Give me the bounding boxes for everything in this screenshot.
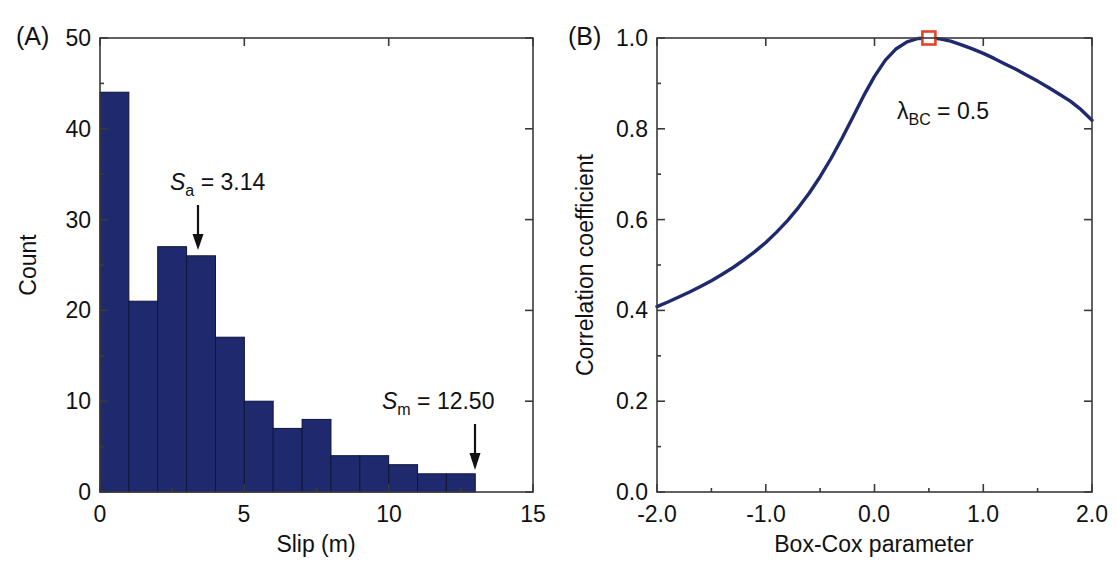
annotation-max-slip-text: Sm = 12.50: [382, 388, 494, 418]
x-ticklabel-4: 2.0: [1076, 501, 1108, 527]
bar-9: [360, 456, 389, 492]
histogram-bars: [100, 92, 475, 492]
x-ticklabel-3: 1.0: [967, 501, 999, 527]
panel-b-y-ticks: [657, 38, 1092, 492]
panel-b-plot: 0.0 0.2 0.4 0.6 0.8 1.0 -2.0 -1.0 0.0 1.…: [557, 0, 1117, 564]
panel-a-histogram: (A): [0, 0, 557, 564]
annotation-max-slip: Sm = 12.50: [382, 388, 494, 470]
annotation-mean-slip-value: = 3.14: [194, 169, 265, 195]
bar-1: [129, 301, 158, 492]
panel-a-x-ticklabels: 0 5 10 15: [94, 501, 546, 527]
panel-a-y-ticklabels: 0 10 20 30 40 50: [65, 25, 91, 505]
annotation-mean-slip-text: Sa = 3.14: [170, 169, 265, 199]
x-ticklabel-2: 10: [376, 501, 402, 527]
annotation-lambda-bc-value: = 0.5: [931, 98, 989, 124]
panel-a-y-axis-title: Count: [15, 234, 41, 296]
y-ticklabel-4: 0.8: [616, 116, 648, 142]
y-ticklabel-1: 0.2: [616, 388, 648, 414]
annotation-max-slip-subscript: m: [397, 401, 410, 418]
panel-a-x-axis-title: Slip (m): [276, 531, 355, 557]
x-ticklabel-1: 5: [238, 501, 251, 527]
x-ticklabel-1: -1.0: [746, 501, 786, 527]
y-ticklabel-3: 30: [65, 207, 91, 233]
y-ticklabel-2: 0.4: [616, 297, 648, 323]
bar-8: [331, 456, 360, 492]
annotation-mean-slip-arrow-head: [193, 234, 204, 250]
y-ticklabel-2: 20: [65, 297, 91, 323]
bar-5: [244, 401, 273, 492]
y-ticklabel-1: 10: [65, 388, 91, 414]
panel-b-axes-frame: [657, 38, 1092, 492]
x-ticklabel-2: 0.0: [858, 501, 890, 527]
bar-4: [216, 337, 245, 492]
y-ticklabel-3: 0.6: [616, 207, 648, 233]
annotation-mean-slip-symbol: S: [170, 169, 186, 195]
bar-11: [418, 474, 447, 492]
bar-6: [273, 428, 302, 492]
x-ticklabel-0: -2.0: [637, 501, 677, 527]
y-ticklabel-5: 1.0: [616, 25, 648, 51]
panel-a-plot: 0 10 20 30 40 50 0 5 10 15 Slip (m) Coun…: [0, 0, 557, 564]
bar-3: [187, 256, 216, 492]
panel-b-y-axis-title: Correlation coefficient: [572, 153, 598, 376]
annotation-max-slip-symbol: S: [382, 388, 398, 414]
bar-0: [100, 92, 129, 492]
panel-b-x-ticklabels: -2.0 -1.0 0.0 1.0 2.0: [637, 501, 1108, 527]
annotation-lambda-bc-subscript: BC: [909, 111, 931, 128]
annotation-max-slip-arrow-head: [470, 453, 481, 470]
annotation-mean-slip-subscript: a: [185, 182, 194, 199]
annotation-lambda-bc: λBC = 0.5: [897, 98, 989, 128]
panel-b-lineplot: (B): [557, 0, 1117, 564]
x-ticklabel-0: 0: [94, 501, 107, 527]
bar-10: [389, 465, 418, 492]
annotation-lambda-bc-symbol: λ: [897, 98, 909, 124]
y-ticklabel-4: 40: [65, 116, 91, 142]
panel-b-x-ticks: [657, 38, 1092, 492]
y-ticklabel-5: 50: [65, 25, 91, 51]
figure-canvas: (A): [0, 0, 1117, 564]
correlation-curve: [657, 38, 1092, 307]
panel-b-y-ticklabels: 0.0 0.2 0.4 0.6 0.8 1.0: [616, 25, 648, 505]
y-ticklabel-0: 0: [78, 479, 91, 505]
annotation-mean-slip: Sa = 3.14: [170, 169, 265, 250]
annotation-max-slip-value: = 12.50: [411, 388, 495, 414]
bar-7: [302, 419, 331, 492]
bar-2: [158, 247, 187, 492]
x-ticklabel-3: 15: [520, 501, 546, 527]
panel-b-x-axis-title: Box-Cox parameter: [774, 531, 974, 557]
